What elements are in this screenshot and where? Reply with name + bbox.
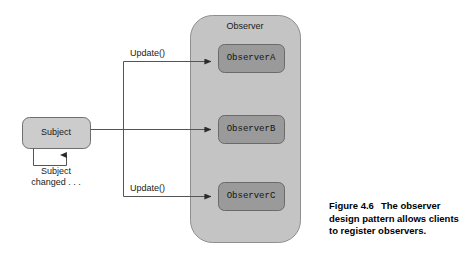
observer-b-label: ObserverB xyxy=(218,124,284,135)
observer-container-label: Observer xyxy=(190,21,300,32)
subject-self-loop xyxy=(34,149,67,166)
figure-caption: Figure 4.6The observer design pattern al… xyxy=(329,200,459,238)
subject-changed-label-line2: changed . . . xyxy=(19,177,93,188)
subject-changed-label-line1: Subject xyxy=(19,166,93,177)
subject-label: Subject xyxy=(22,127,90,138)
edge-update-bottom-label: Update() xyxy=(130,183,190,194)
observer-a-label: ObserverA xyxy=(218,53,284,64)
observer-c-label: ObserverC xyxy=(218,191,284,202)
edge-update-top-label: Update() xyxy=(130,48,190,59)
caption-figure-number: Figure 4.6 xyxy=(329,200,374,211)
figure-page: Observer ObserverA ObserverB ObserverC S… xyxy=(0,0,463,260)
